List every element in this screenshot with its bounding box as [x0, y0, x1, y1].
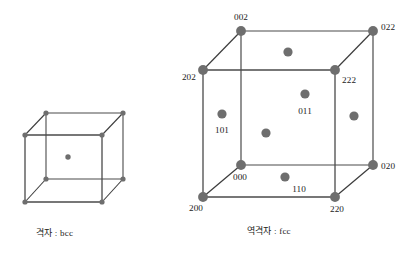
- right-node-220: [330, 192, 340, 202]
- left-node-back-top-right: [120, 110, 125, 115]
- right-node-face-101: [217, 109, 226, 118]
- label-022: 022: [381, 22, 395, 32]
- right-edge-depth-tl: [203, 31, 241, 70]
- label-220: 220: [330, 204, 344, 214]
- label-222: 222: [342, 75, 356, 85]
- left-node-back-bottom-right: [120, 176, 125, 181]
- right-node-020: [368, 160, 378, 170]
- left-node-front-bottom-right: [99, 199, 104, 204]
- left-cube-front-face-edges: [25, 135, 102, 202]
- left-edge-depth-tl: [25, 113, 46, 135]
- right-node-face-011: [300, 89, 309, 98]
- right-node-face-110: [280, 172, 289, 181]
- label-202: 202: [182, 72, 196, 82]
- left-node-back-top-left: [43, 110, 48, 115]
- left-cube-back-face-edges: [46, 113, 123, 179]
- right-node-200: [198, 192, 208, 202]
- right-node-022: [368, 26, 378, 36]
- label-000: 000: [233, 172, 247, 182]
- right-edge-depth-br: [335, 165, 373, 197]
- right-node-face-center: [261, 128, 270, 137]
- left-node-front-top-right: [99, 132, 104, 137]
- right-cube-group: 002 022 202 222 020 000 200 220 011 101 …: [182, 12, 395, 214]
- label-110: 110: [292, 184, 306, 194]
- right-node-face-right: [349, 111, 358, 120]
- left-cube-corner-nodes: [22, 110, 125, 204]
- label-020: 020: [381, 161, 395, 171]
- right-node-face-top: [283, 47, 292, 56]
- left-node-back-bottom-left: [43, 176, 48, 181]
- left-node-body-center: [65, 154, 70, 159]
- left-cube-depth-edges: [25, 113, 123, 202]
- right-node-222: [330, 65, 340, 75]
- lattice-diagram-svg: 002 022 202 222 020 000 200 220 011 101 …: [0, 0, 406, 253]
- label-200: 200: [189, 203, 203, 213]
- left-edge-depth-tr: [102, 113, 123, 135]
- left-edge-depth-br: [102, 179, 123, 202]
- right-cube-corner-labels: 002 022 202 222 020 000 200 220: [182, 12, 395, 214]
- label-011: 011: [298, 106, 312, 116]
- label-002: 002: [234, 12, 248, 22]
- right-cube-face-labels: 011 101 110: [215, 106, 312, 194]
- right-edge-depth-tr: [335, 31, 373, 70]
- right-node-202: [198, 65, 208, 75]
- right-node-000: [236, 160, 246, 170]
- lattice-figure: 002 022 202 222 020 000 200 220 011 101 …: [0, 0, 406, 253]
- label-101: 101: [215, 125, 229, 135]
- caption-bcc: 격자 : bcc: [36, 226, 73, 239]
- left-cube-group: [22, 110, 125, 204]
- left-node-front-top-left: [22, 132, 27, 137]
- left-node-front-bottom-left: [22, 199, 27, 204]
- caption-fcc: 역격자 : fcc: [247, 224, 291, 237]
- right-node-002: [236, 26, 246, 36]
- left-edge-depth-bl: [25, 179, 46, 202]
